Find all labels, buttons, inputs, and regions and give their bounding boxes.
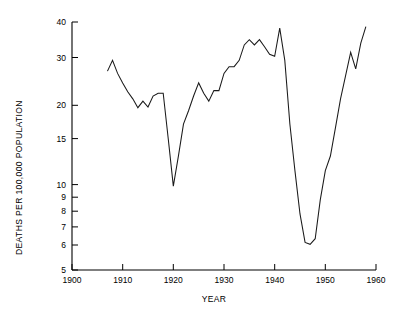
line-chart-svg: DEATHS PER 100,000 POPULATION 40 30 20 1… xyxy=(0,0,419,314)
y-tick-label-9: 9 xyxy=(61,192,66,202)
y-axis-tick-labels: 40 30 20 15 10 9 8 7 6 5 xyxy=(57,17,67,275)
y-tick-label-40: 40 xyxy=(57,17,67,27)
y-tick-label-5: 5 xyxy=(61,265,66,275)
x-tick-label-1950: 1950 xyxy=(316,275,335,285)
y-axis-ticks xyxy=(72,22,78,270)
x-tick-label-1930: 1930 xyxy=(215,275,234,285)
x-tick-label-1960: 1960 xyxy=(367,275,386,285)
x-tick-label-1920: 1920 xyxy=(164,275,183,285)
y-tick-label-8: 8 xyxy=(61,206,66,216)
y-tick-label-30: 30 xyxy=(57,53,67,63)
y-tick-label-15: 15 xyxy=(57,134,67,144)
y-axis-title: DEATHS PER 100,000 POPULATION xyxy=(14,100,24,255)
x-tick-label-1910: 1910 xyxy=(113,275,132,285)
chart-container: DEATHS PER 100,000 POPULATION 40 30 20 1… xyxy=(0,0,419,314)
y-tick-label-10: 10 xyxy=(57,180,67,190)
data-series-line xyxy=(107,27,365,245)
x-axis-ticks xyxy=(72,264,376,270)
x-tick-label-1900: 1900 xyxy=(63,275,82,285)
y-tick-label-20: 20 xyxy=(57,100,67,110)
x-axis-tick-labels: 1900 1910 1920 1930 1940 1950 1960 xyxy=(63,275,386,285)
x-axis-title: YEAR xyxy=(202,294,227,304)
y-tick-label-6: 6 xyxy=(61,240,66,250)
y-tick-label-7: 7 xyxy=(61,222,66,232)
x-tick-label-1940: 1940 xyxy=(265,275,284,285)
